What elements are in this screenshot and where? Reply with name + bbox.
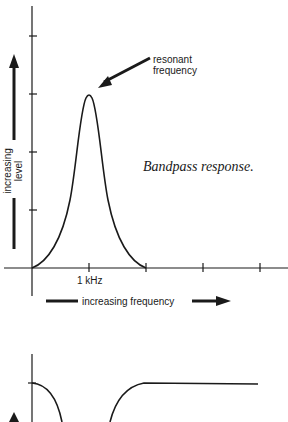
annotation-line2: frequency [153, 65, 197, 76]
level-arrow-head [9, 54, 19, 68]
bandpass-plot [4, 6, 288, 306]
freq-arrow-head [216, 296, 231, 306]
annotation-line1: resonant [153, 54, 192, 65]
y-axis-label: increasing level [2, 141, 26, 201]
notch-plot [9, 354, 258, 422]
diagram-canvas [0, 0, 288, 422]
figure-caption: Bandpass response. [143, 159, 254, 175]
annotation-arrow-shaft [104, 58, 150, 82]
x-axis-label: increasing frequency [82, 296, 174, 307]
notch-curve [32, 383, 62, 422]
bandpass-curve [32, 95, 146, 268]
x-tick-label-1khz: 1 kHz [77, 275, 103, 286]
y-axis-label-line2: level [13, 141, 24, 201]
level-arrow-head-2 [9, 412, 19, 422]
notch-curve-rise [110, 383, 258, 422]
y-axis-label-line1: increasing [2, 141, 13, 201]
